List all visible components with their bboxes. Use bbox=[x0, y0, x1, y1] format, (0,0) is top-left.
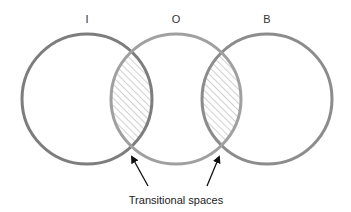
label-o: O bbox=[172, 13, 181, 25]
label-b: B bbox=[263, 13, 270, 25]
arrow-left-icon bbox=[132, 157, 148, 186]
arrow-right-icon bbox=[207, 157, 219, 186]
label-i: I bbox=[85, 13, 88, 25]
caption: Transitional spaces bbox=[129, 194, 224, 206]
venn-diagram: I O B Transitional spaces bbox=[0, 0, 351, 212]
